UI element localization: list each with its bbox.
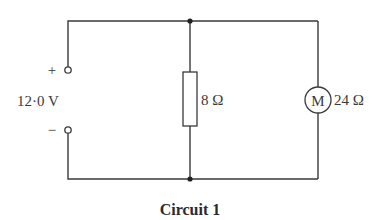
positive-label: + bbox=[48, 62, 56, 78]
negative-terminal bbox=[65, 127, 71, 133]
motor-symbol-letter: M bbox=[311, 93, 324, 109]
resistor-label: 8 Ω bbox=[201, 92, 223, 108]
resistor-symbol bbox=[183, 72, 197, 126]
circuit-diagram: + − 12·0 V 8 Ω M 24 Ω Circuit 1 bbox=[0, 0, 380, 220]
motor-label: 24 Ω bbox=[334, 92, 364, 108]
junction-top bbox=[187, 18, 192, 23]
negative-label: − bbox=[48, 122, 56, 138]
junction-bottom bbox=[187, 176, 192, 181]
voltage-label: 12·0 V bbox=[17, 93, 59, 109]
top-wire bbox=[68, 21, 318, 67]
positive-terminal bbox=[65, 67, 71, 73]
figure-caption: Circuit 1 bbox=[160, 201, 221, 218]
bottom-wire bbox=[68, 133, 318, 179]
